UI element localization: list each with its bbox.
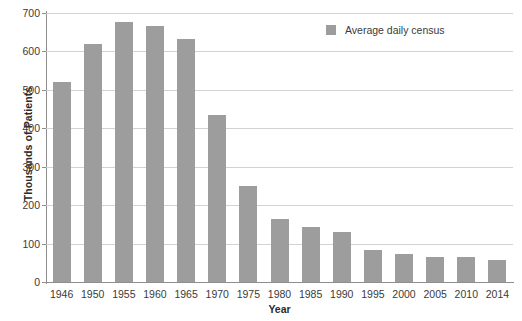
bar — [239, 186, 257, 282]
bar — [84, 44, 102, 282]
bar — [302, 227, 320, 282]
x-tick-label: 1975 — [237, 288, 260, 300]
bar — [333, 232, 351, 282]
bar — [426, 257, 444, 282]
bar — [177, 39, 195, 282]
y-tick-label: 100 — [22, 238, 40, 250]
x-tick-label: 2010 — [455, 288, 478, 300]
x-tick-label: 1960 — [143, 288, 166, 300]
y-tick-label: 300 — [22, 161, 40, 173]
y-tick-label: 0 — [34, 276, 40, 288]
y-tick-label: 500 — [22, 84, 40, 96]
x-tick-label: 2014 — [486, 288, 509, 300]
gridline-0: 0 — [46, 282, 513, 283]
x-tick-label: 1970 — [206, 288, 229, 300]
x-tick-label: 1985 — [299, 288, 322, 300]
legend: Average daily census — [326, 24, 445, 36]
x-tick-label: 1990 — [330, 288, 353, 300]
x-tick-label: 1950 — [81, 288, 104, 300]
legend-label: Average daily census — [345, 24, 445, 36]
bar — [115, 22, 133, 282]
x-tick-label: 2005 — [423, 288, 446, 300]
x-tick-label: 1980 — [268, 288, 291, 300]
x-tick-label: 1965 — [174, 288, 197, 300]
bar — [364, 250, 382, 282]
bar — [53, 82, 71, 282]
x-tick-label: 1955 — [112, 288, 135, 300]
y-tick-label: 600 — [22, 45, 40, 57]
x-tick-label: 1995 — [361, 288, 384, 300]
y-tick-label: 400 — [22, 122, 40, 134]
bar — [488, 260, 506, 282]
bar — [208, 115, 226, 282]
y-tick-label: 700 — [22, 7, 40, 19]
legend-swatch-icon — [326, 25, 336, 35]
bar — [457, 257, 475, 282]
x-axis-title: Year — [46, 303, 513, 315]
bar — [395, 254, 413, 282]
x-tick-label: 1946 — [50, 288, 73, 300]
bar — [146, 26, 164, 282]
bar-chart: Thousands of Patients 010020030040050060… — [0, 0, 522, 321]
bar — [271, 219, 289, 282]
bars-layer — [46, 13, 513, 282]
x-tick-label: 2000 — [392, 288, 415, 300]
y-tick-mark — [42, 282, 46, 283]
y-tick-label: 200 — [22, 199, 40, 211]
